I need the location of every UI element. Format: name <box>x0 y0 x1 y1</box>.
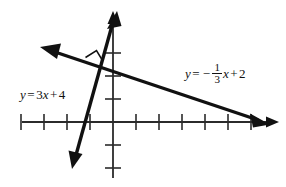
figure-canvas: y=3x+4 y=−13x+2 <box>0 0 286 187</box>
line-steep-arrow-down-icon <box>69 151 83 170</box>
label-right-plus: + <box>229 66 239 81</box>
equation-label-left-line: y=3x+4 <box>20 88 65 101</box>
label-left-plus: + <box>48 87 58 102</box>
equation-label-right-line: y=−13x+2 <box>185 63 246 86</box>
label-left-constant: 4 <box>59 87 66 102</box>
label-right-minus: − <box>201 66 211 81</box>
line-negative-arrow-left-icon <box>40 44 61 60</box>
x-axis-arrow-right-icon <box>266 117 279 128</box>
label-left-equals: = <box>26 87 36 102</box>
label-right-x: x <box>223 66 229 81</box>
label-left-y: y <box>20 87 26 102</box>
label-right-fraction: 13 <box>212 62 222 85</box>
label-right-equals: = <box>191 66 201 81</box>
fraction-numerator: 1 <box>212 62 222 73</box>
right-angle-marker <box>86 51 103 61</box>
line-three-x-plus-four-segment <box>76 22 113 155</box>
line-steep-arrow-up-icon <box>107 11 122 29</box>
label-right-constant: 2 <box>239 66 246 81</box>
label-right-y: y <box>185 66 191 81</box>
fraction-denominator: 3 <box>212 74 222 85</box>
